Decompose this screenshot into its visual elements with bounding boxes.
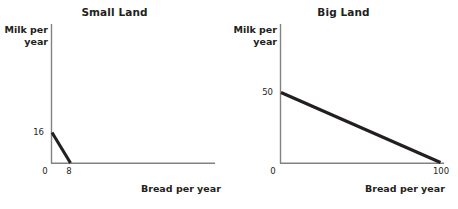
- chart-panel-small-land: Small Land Milk per year 16 0 8 Bread pe…: [0, 0, 229, 209]
- x-tick-label-origin: 0: [266, 166, 280, 176]
- x-axis-label-small-land: Bread per year: [141, 183, 221, 194]
- x-tick-label-8: 8: [62, 166, 76, 176]
- x-axis-label-big-land: Bread per year: [365, 183, 445, 194]
- x-tick-label-origin: 0: [38, 166, 52, 176]
- chart-panel-big-land: Big Land Milk per year 50 0 100 Bread pe…: [229, 0, 458, 209]
- ppf-line-small-land: [52, 133, 71, 164]
- y-tick-label-16: 16: [26, 127, 44, 137]
- x-tick-label-100: 100: [430, 166, 452, 176]
- ppf-line-big-land: [281, 93, 441, 163]
- plot-area-big-land: [229, 0, 458, 209]
- y-tick-label-50: 50: [253, 87, 273, 97]
- two-panel-ppf-figure: Small Land Milk per year 16 0 8 Bread pe…: [0, 0, 458, 209]
- plot-area-small-land: [0, 0, 229, 209]
